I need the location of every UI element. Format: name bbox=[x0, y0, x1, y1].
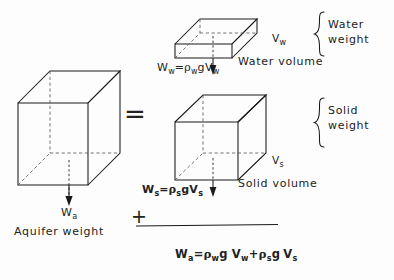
water-eq-lhs: W bbox=[157, 61, 168, 74]
water-volume-symbol-base: V bbox=[272, 32, 280, 44]
result-term2-g: g bbox=[272, 247, 281, 261]
water-volume-symbol: Vw bbox=[272, 33, 287, 47]
water-eq-g: g bbox=[198, 61, 205, 74]
result-operator: + bbox=[249, 247, 259, 261]
equals-operator: = bbox=[124, 101, 146, 127]
water-weight-brace-label-line1: Water bbox=[328, 17, 369, 32]
result-term1-v: V bbox=[232, 247, 241, 261]
aquifer-weight-caption: Aquifer weight bbox=[14, 226, 104, 237]
solid-weight-brace bbox=[315, 98, 325, 147]
result-term1-rho: ρ bbox=[204, 247, 212, 261]
figure-canvas: = Wa Aquifer weight Ww=ρwgVw Vw Water vo… bbox=[0, 0, 394, 280]
solid-weight-brace-label-line2: weight bbox=[328, 118, 369, 133]
water-weight-brace-label-line2: weight bbox=[328, 32, 369, 47]
solid-eq-rel: = bbox=[159, 183, 169, 196]
water-slab-shape bbox=[175, 19, 257, 58]
solid-weight-brace-label-line1: Solid bbox=[328, 103, 369, 118]
solid-volume-symbol-base: V bbox=[272, 154, 280, 166]
solid-eq-v: V bbox=[189, 183, 198, 196]
result-equation: Wa=ρwgVw+ρsgVs bbox=[175, 249, 298, 263]
solid-volume-caption: Solid volume bbox=[238, 178, 317, 189]
plus-operator: + bbox=[131, 207, 147, 226]
solid-eq-lhs: W bbox=[142, 183, 154, 196]
result-lhs: W bbox=[175, 247, 188, 261]
water-weight-equation: Ww=ρwgVw bbox=[157, 62, 219, 76]
result-term1-v-sub: w bbox=[241, 254, 249, 263]
water-eq-v: V bbox=[205, 61, 213, 74]
water-slab-hidden-edges bbox=[175, 19, 257, 58]
aquifer-weight-symbol: Wa bbox=[61, 207, 77, 221]
solid-weight-brace-label: Solid weight bbox=[328, 103, 369, 133]
water-eq-rel: = bbox=[175, 61, 185, 74]
water-volume-symbol-sub: w bbox=[280, 38, 287, 47]
aquifer-weight-symbol-sub: a bbox=[72, 212, 77, 221]
result-term2-rho: ρ bbox=[259, 247, 267, 261]
aquifer-weight-arrow bbox=[65, 160, 72, 206]
solid-eq-v-sub: s bbox=[198, 189, 203, 198]
summation-rule bbox=[136, 225, 278, 227]
solid-volume-symbol: Vs bbox=[272, 155, 284, 169]
result-rel: = bbox=[194, 247, 204, 261]
water-eq-v-sub: w bbox=[213, 67, 220, 76]
solid-weight-arrow bbox=[210, 158, 217, 197]
solid-volume-symbol-sub: s bbox=[280, 160, 285, 169]
water-weight-brace bbox=[315, 12, 325, 56]
result-term1-g: g bbox=[219, 247, 228, 261]
aquifer-weight-symbol-base: W bbox=[61, 206, 72, 219]
water-volume-caption: Water volume bbox=[238, 56, 323, 67]
solid-weight-equation: Ws=ρsgVs bbox=[142, 184, 203, 198]
result-term2-v-sub: s bbox=[292, 254, 297, 263]
aquifer-block-shape bbox=[18, 71, 120, 185]
water-weight-brace-label: Water weight bbox=[328, 17, 369, 47]
